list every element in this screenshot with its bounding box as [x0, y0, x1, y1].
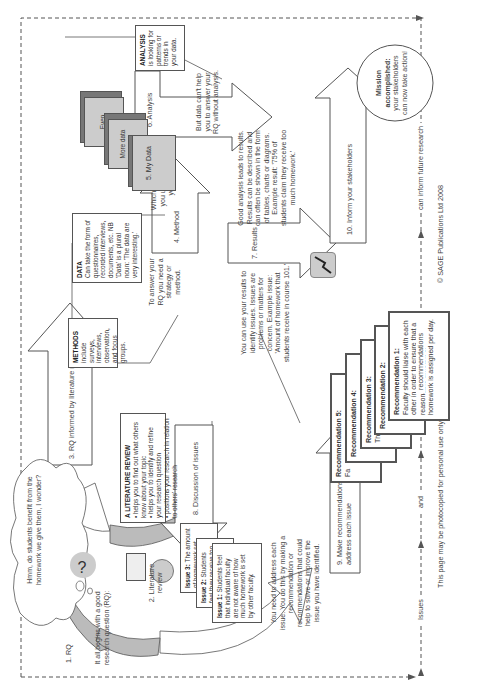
- mission-text: Mission accomplished:your stakeholders c…: [375, 51, 409, 115]
- step-8-label: 8. Discussion of issues: [191, 442, 200, 515]
- step-7-label: 7. Results: [250, 227, 259, 259]
- analysis-box: ANALYSIS is looking for patterns or tren…: [135, 25, 185, 71]
- issue-card-1: Issue 1: Students feel that individual f…: [212, 543, 262, 623]
- data-card-my-data: 5. My Data: [132, 135, 176, 191]
- methods-box: METHODS include surveys, interviews, obs…: [68, 318, 118, 368]
- footer-future-research: can inform future research: [416, 123, 425, 213]
- recommend-note: You need to address each issue. You do t…: [270, 533, 322, 633]
- chart-icon: [310, 252, 336, 278]
- issues-note: You can use your results to identify iss…: [240, 263, 292, 363]
- step-2-label: 2. Literature review: [148, 561, 164, 605]
- research-cycle-diagram: ? Hmm, do students benefit from the home…: [0, 0, 491, 683]
- footer-issues: Issues: [416, 596, 425, 623]
- method-note: To answer your RQ you need a strategy or…: [148, 253, 182, 311]
- step-1-label: 1. RQ: [64, 644, 73, 663]
- footer-note: This page may be photocopied for persona…: [436, 421, 445, 588]
- step-10-label: 10. Inform your stakeholders: [345, 144, 354, 235]
- results-note: Good analysis leads to results. Results …: [237, 128, 297, 228]
- step-4-label: 4. Method: [172, 211, 181, 243]
- book-icon: [126, 553, 146, 581]
- analysis-note: But data can't help you to answer your R…: [195, 69, 221, 135]
- footer-and: and: [416, 493, 425, 511]
- copyright: © SAGE Publications Ltd 2008: [436, 185, 445, 283]
- thought-bubble-text: Hmm, do students benefit from the homewo…: [26, 465, 43, 595]
- lit-bullet-1: • helps you to find out what others know…: [132, 418, 148, 518]
- thinking-person-icon: ?: [70, 552, 96, 578]
- literature-review-box: A LITERATURE REVIEW • helps you to find …: [120, 413, 166, 523]
- footer-recommendations: recommendations: [416, 330, 425, 393]
- literature-review-title: A LITERATURE REVIEW: [124, 445, 131, 518]
- intro-text: It all begins with a good research quest…: [94, 585, 111, 671]
- lit-bullet-3: • positions your research in relation to…: [163, 418, 179, 518]
- data-box: DATACan take the form of questionnaires,…: [72, 213, 142, 283]
- lit-bullet-2: • helps you to identify and refine your …: [147, 418, 163, 518]
